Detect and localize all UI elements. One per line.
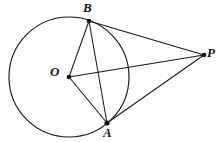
segment-o-to-b: [69, 21, 89, 77]
segment-o-to-a: [69, 77, 107, 123]
tangent-a-to-p: [107, 55, 204, 123]
geometry-svg-surface: [0, 0, 218, 142]
vertex-point-o: [67, 75, 72, 80]
vertex-point-b: [87, 19, 92, 24]
point-label-b: B: [83, 1, 92, 14]
segment-o-to-p: [69, 55, 204, 77]
point-label-o: O: [50, 65, 59, 78]
tangent-b-to-p: [89, 21, 204, 55]
point-label-p: P: [207, 46, 215, 59]
vertex-point-p: [202, 53, 207, 58]
geometry-figure-canvas: B P O A: [0, 0, 218, 142]
point-label-a: A: [103, 126, 112, 139]
chord-b-to-a: [89, 21, 107, 123]
